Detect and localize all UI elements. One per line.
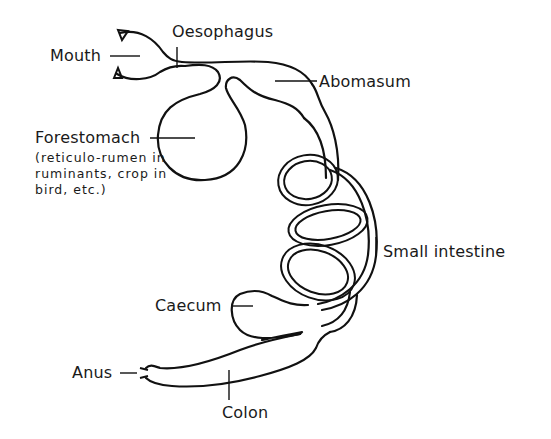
label-anus: Anus — [72, 363, 112, 382]
label-forestomach-note-3: bird, etc.) — [35, 182, 107, 198]
label-abomasum: Abomasum — [319, 72, 411, 91]
label-forestomach: Forestomach — [35, 128, 140, 147]
label-oesophagus: Oesophagus — [172, 22, 273, 41]
leader-lines — [110, 47, 376, 400]
label-caecum: Caecum — [155, 296, 222, 315]
label-forestomach-note-1: (reticulo-rumen in — [35, 150, 166, 166]
label-colon: Colon — [222, 403, 268, 422]
label-small-intestine: Small intestine — [383, 242, 505, 261]
label-mouth: Mouth — [50, 46, 101, 65]
label-forestomach-note-2: ruminants, crop in — [35, 166, 167, 182]
colon-shape — [140, 332, 330, 387]
caecum-shape — [232, 291, 308, 340]
forestomach-shape — [158, 65, 304, 180]
